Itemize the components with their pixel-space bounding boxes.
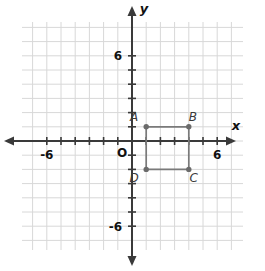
y-axis-arrow-up — [128, 6, 137, 16]
vertex-point-a — [144, 124, 149, 129]
origin-label: O — [117, 146, 127, 160]
y-axis-arrow-down — [128, 256, 137, 266]
x-axis-arrow-left — [4, 137, 14, 146]
coordinate-plane-svg: xy-666-6OABCD — [0, 0, 265, 271]
vertex-point-b — [186, 124, 191, 129]
x-axis-label: x — [231, 118, 241, 133]
rectangle-abcd — [146, 127, 189, 170]
vertex-label-d: D — [130, 171, 139, 185]
vertex-point-d — [144, 167, 149, 172]
y-tick-label-1: -6 — [109, 220, 122, 234]
coordinate-plane-figure: xy-666-6OABCD — [0, 0, 265, 271]
vertex-label-c: C — [190, 171, 199, 185]
y-tick-label-0: 6 — [114, 49, 122, 63]
labels-layer: xy-666-6OABCD — [40, 1, 241, 234]
x-tick-label-1: 6 — [213, 148, 221, 162]
shape-layer — [144, 124, 192, 172]
y-axis-label: y — [140, 1, 149, 16]
vertex-label-a: A — [129, 110, 138, 124]
x-tick-label-0: -6 — [40, 148, 53, 162]
vertex-label-b: B — [189, 110, 197, 124]
